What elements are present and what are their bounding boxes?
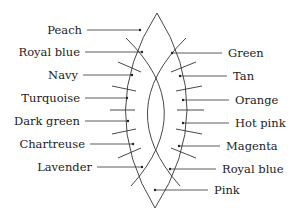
label-left-6: Lavender (37, 160, 143, 174)
pointer-dot (141, 166, 143, 168)
inner-right-arc (126, 38, 164, 186)
color-label: Green (228, 46, 264, 60)
pointer-dot (131, 74, 133, 76)
label-right-0: Green (171, 46, 264, 60)
label-left-3: Turquoise (21, 91, 128, 105)
pointer-dot (141, 51, 143, 53)
label-right-1: Tan (179, 69, 255, 83)
color-label: Lavender (37, 160, 92, 174)
pointer-dot (182, 99, 184, 101)
label-right-4: Magenta (178, 139, 278, 153)
right-labels: GreenTanOrangeHot pinkMagentaRoyal blueP… (154, 46, 287, 197)
color-label: Pink (214, 183, 241, 197)
color-label: Royal blue (18, 45, 80, 59)
color-label: Tan (233, 69, 255, 83)
label-left-2: Navy (48, 68, 133, 82)
divider (112, 86, 136, 91)
color-lens-diagram: PeachRoyal blueNavyTurquoiseDark greenCh… (0, 0, 295, 218)
color-label: Magenta (226, 139, 278, 153)
label-right-2: Orange (182, 93, 279, 107)
lens-shape (110, 13, 204, 208)
color-label: Dark green (14, 114, 81, 128)
color-label: Peach (47, 23, 82, 37)
label-right-5: Royal blue (169, 162, 284, 176)
color-label: Turquoise (21, 91, 80, 105)
color-label: Chartreuse (19, 137, 85, 151)
divider (171, 148, 196, 158)
divider (176, 129, 202, 134)
pointer-dot (169, 168, 171, 170)
label-right-6: Pink (154, 183, 241, 197)
label-right-3: Hot pink (182, 116, 287, 130)
pointer-dot (154, 189, 156, 191)
label-left-1: Royal blue (18, 45, 143, 59)
pointer-dot (126, 97, 128, 99)
label-left-4: Dark green (14, 114, 129, 128)
color-label: Navy (48, 68, 78, 82)
left-labels: PeachRoyal blueNavyTurquoiseDark greenCh… (14, 23, 143, 174)
pointer-dot (132, 143, 134, 145)
divider (118, 148, 141, 158)
pointer-dot (171, 52, 173, 54)
color-label: Royal blue (222, 162, 284, 176)
label-left-5: Chartreuse (19, 137, 134, 151)
pointer-dot (139, 29, 141, 31)
pointer-dot (182, 122, 184, 124)
divider (171, 62, 196, 72)
divider (176, 86, 202, 91)
pointer-dot (179, 75, 181, 77)
divider (118, 62, 141, 72)
label-left-0: Peach (47, 23, 141, 37)
color-label: Orange (235, 93, 279, 107)
color-label: Hot pink (235, 116, 287, 130)
pointer-dot (178, 145, 180, 147)
pointer-dot (127, 120, 129, 122)
inner-left-arc (147, 38, 186, 186)
divider (112, 129, 136, 134)
